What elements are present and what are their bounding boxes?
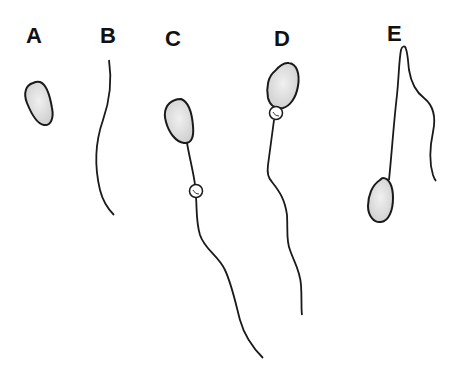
panel-c-sperm	[165, 99, 263, 358]
cytoplasmic-droplet-c	[190, 185, 203, 198]
cytoplasmic-droplet-d	[270, 107, 283, 120]
panel-d-sperm	[267, 63, 302, 315]
panel-a-head	[25, 82, 52, 125]
panel-b-tail	[96, 60, 114, 215]
panel-e-sperm	[368, 46, 436, 222]
sperm-diagram	[0, 0, 452, 369]
